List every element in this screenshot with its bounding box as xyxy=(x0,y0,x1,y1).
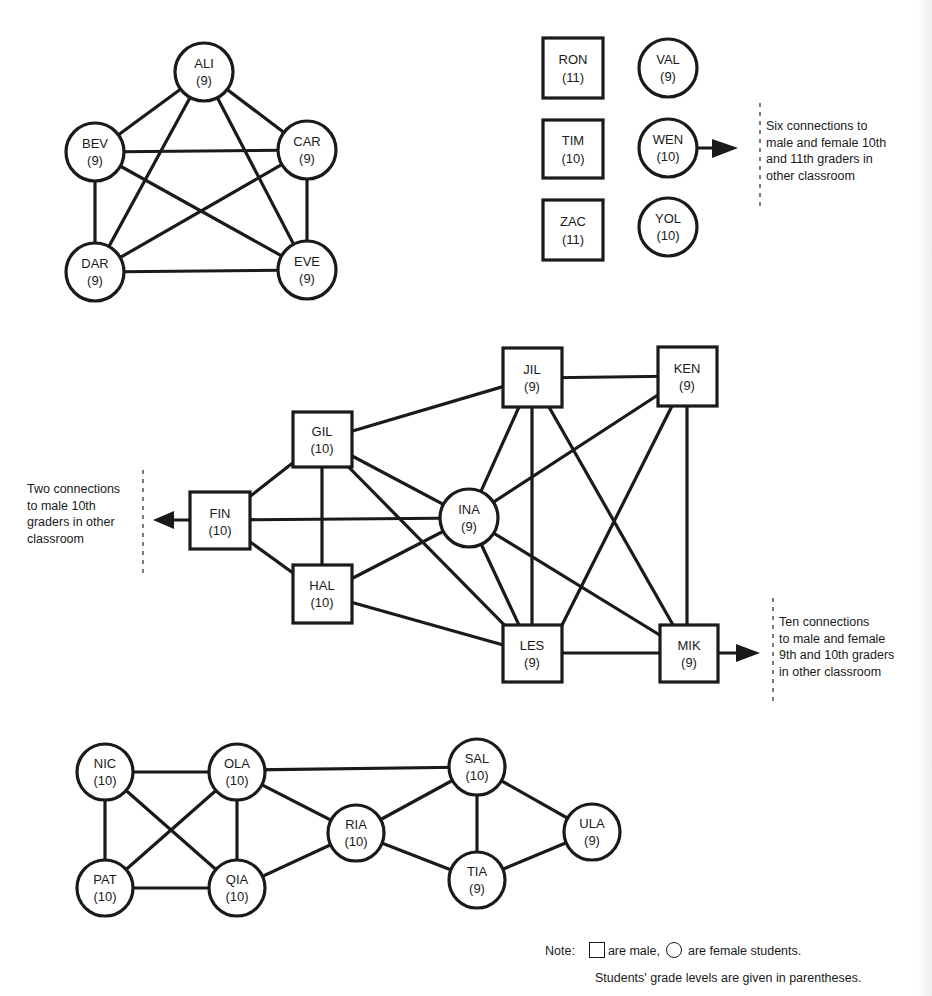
node-grade: (10) xyxy=(656,149,679,164)
node-name: MIK xyxy=(677,638,700,653)
node-ULA: ULA (9) xyxy=(564,804,620,860)
node-EVE: EVE (9) xyxy=(278,241,336,299)
legend-line-1: Note:are male,are female students. xyxy=(545,942,801,960)
node-name: BEV xyxy=(82,136,108,151)
node-name: NIC xyxy=(94,756,116,771)
edge-DAR-EVE xyxy=(95,270,307,272)
node-name: YOL xyxy=(655,211,681,226)
node-GIL: GIL (10) xyxy=(293,412,352,467)
node-grade: (9) xyxy=(87,153,103,168)
node-name: INA xyxy=(458,502,480,517)
node-DAR: DAR (9) xyxy=(66,243,124,301)
node-name: VAL xyxy=(656,52,680,67)
arrow-right-icon xyxy=(718,644,760,662)
node-name: WEN xyxy=(653,132,683,147)
node-HAL: HAL (10) xyxy=(293,565,352,623)
node-TIA: TIA (9) xyxy=(449,852,505,908)
node-name: HAL xyxy=(309,578,334,593)
arrow-left-icon xyxy=(153,511,190,529)
node-grade: (10) xyxy=(93,889,116,904)
annotation-wen-external: Six connections to male and female 10th … xyxy=(766,118,886,184)
node-grade: (10) xyxy=(310,595,333,610)
node-YOL: YOL (10) xyxy=(639,198,697,256)
square-male-icon xyxy=(589,942,605,958)
node-grade: (9) xyxy=(299,271,315,286)
node-BEV: BEV (9) xyxy=(66,123,124,181)
edge-BEV-CAR xyxy=(95,150,307,152)
node-grade: (9) xyxy=(469,881,485,896)
node-grade: (10) xyxy=(225,889,248,904)
node-grade: (10) xyxy=(208,523,231,538)
node-grade: (9) xyxy=(87,273,103,288)
node-MIK: MIK (9) xyxy=(660,625,718,682)
node-name: RON xyxy=(559,52,588,67)
node-ZAC: ZAC (11) xyxy=(543,200,603,260)
node-grade: (9) xyxy=(461,519,477,534)
node-name: SAL xyxy=(465,751,490,766)
node-OLA: OLA (10) xyxy=(209,744,265,800)
note-label: Note: xyxy=(545,944,575,958)
node-grade: (9) xyxy=(584,833,600,848)
node-grade: (9) xyxy=(679,378,695,393)
node-grade: (9) xyxy=(681,655,697,670)
node-LES: LES (9) xyxy=(503,625,562,682)
node-SAL: SAL (10) xyxy=(449,739,505,795)
legend-line-2: Students' grade levels are given in pare… xyxy=(595,970,861,987)
node-name: FIN xyxy=(210,506,231,521)
node-name: DAR xyxy=(81,256,108,271)
node-grade: (11) xyxy=(562,232,584,247)
node-VAL: VAL (9) xyxy=(639,39,697,97)
node-name: TIA xyxy=(467,864,488,879)
node-grade: (10) xyxy=(310,441,333,456)
node-grade: (10) xyxy=(561,151,584,166)
node-RIA: RIA (10) xyxy=(328,805,384,861)
node-name: LES xyxy=(520,638,545,653)
node-CAR: CAR (9) xyxy=(278,121,336,179)
circle-female-icon xyxy=(666,942,682,958)
node-grade: (9) xyxy=(660,69,676,84)
node-WEN: WEN (10) xyxy=(639,119,697,177)
node-name: CAR xyxy=(293,134,320,149)
node-grade: (9) xyxy=(299,151,315,166)
node-grade: (10) xyxy=(225,773,248,788)
node-PAT: PAT (10) xyxy=(77,860,133,916)
node-TIM: TIM (10) xyxy=(543,120,603,178)
arrow-right-icon xyxy=(698,139,738,158)
node-name: ULA xyxy=(579,816,605,831)
node-grade: (9) xyxy=(524,655,540,670)
node-name: RIA xyxy=(345,817,367,832)
node-INA: INA (9) xyxy=(440,489,498,547)
node-grade: (11) xyxy=(562,70,584,85)
male-legend-text: are male, xyxy=(608,944,660,958)
node-name: TIM xyxy=(562,133,584,148)
node-ALI: ALI (9) xyxy=(175,43,233,101)
node-QIA: QIA (10) xyxy=(209,860,265,916)
node-name: PAT xyxy=(93,872,116,887)
scan-edge-shade xyxy=(918,0,932,996)
node-name: JIL xyxy=(523,362,540,377)
node-KEN: KEN (9) xyxy=(658,347,717,406)
edge-FIN-INA xyxy=(220,518,469,520)
node-grade: (9) xyxy=(196,73,212,88)
node-grade: (10) xyxy=(656,228,679,243)
female-legend-text: are female students. xyxy=(688,944,801,958)
node-NIC: NIC (10) xyxy=(77,744,133,800)
node-FIN: FIN (10) xyxy=(190,492,250,549)
annotation-fin-external: Two connections to male 10th graders in … xyxy=(27,481,120,547)
annotation-mik-external: Ten connections to male and female 9th a… xyxy=(779,614,894,680)
node-RON: RON (11) xyxy=(543,38,603,98)
edge-OLA-SAL xyxy=(237,767,477,770)
node-name: OLA xyxy=(224,756,250,771)
node-name: GIL xyxy=(312,424,333,439)
node-name: QIA xyxy=(226,872,249,887)
node-name: ZAC xyxy=(560,214,586,229)
node-name: ALI xyxy=(194,56,214,71)
node-grade: (10) xyxy=(93,773,116,788)
node-name: KEN xyxy=(674,361,701,376)
node-grade: (10) xyxy=(465,768,488,783)
node-JIL: JIL (9) xyxy=(503,348,562,407)
node-grade: (9) xyxy=(524,379,540,394)
node-grade: (10) xyxy=(344,834,367,849)
node-name: EVE xyxy=(294,254,320,269)
